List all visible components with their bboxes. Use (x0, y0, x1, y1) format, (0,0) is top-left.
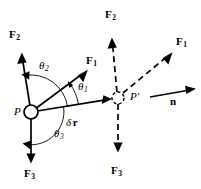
label-f3-left: F3 (24, 168, 35, 181)
label-theta3: θ3 (54, 128, 64, 141)
vector-f2-solid (17, 53, 31, 113)
label-f1-left: F1 (86, 55, 97, 68)
label-f2-right: F2 (105, 9, 116, 22)
label-normal-n: n (170, 96, 176, 107)
label-f1-right: F1 (176, 36, 187, 49)
angle-arc-theta1 (68, 81, 79, 105)
vector-f2-dashed (108, 38, 118, 93)
angle-arc-theta2 (21, 71, 67, 106)
label-f3-right: F3 (111, 165, 122, 178)
point-p-marker (24, 105, 38, 119)
vector-diagram-figure: F2 F1 F3 F2 F1 F3 θ1 θ2 θ3 P P′ δr n (0, 0, 201, 189)
vector-f3-dashed (113, 104, 122, 153)
label-delta-r: δr (66, 113, 78, 129)
label-point-p: P (14, 106, 21, 117)
label-f2-left: F2 (9, 29, 20, 42)
label-point-p-prime: P′ (130, 91, 139, 102)
label-theta2: θ2 (39, 60, 49, 73)
label-theta1: θ1 (78, 81, 88, 94)
point-p-prime-marker (112, 92, 124, 104)
vector-f1-dashed (123, 52, 173, 93)
